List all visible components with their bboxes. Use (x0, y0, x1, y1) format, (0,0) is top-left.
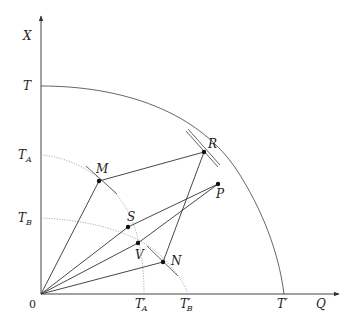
label-v: V (135, 248, 145, 262)
x-tick-ta-prime: T′A (135, 297, 148, 313)
y-tick-t: T (23, 79, 32, 93)
y-tick-tb: TB (18, 211, 32, 227)
production-possibility-diagram: M R P S V N X Q 0 T TA TB T′A T′B T′ (0, 0, 357, 328)
point-s (126, 225, 130, 229)
segment-s-p (128, 184, 218, 227)
segment-m-r (99, 152, 204, 181)
segment-v-p (138, 184, 218, 243)
point-m (97, 179, 101, 183)
point-n (161, 260, 165, 264)
point-p (216, 182, 220, 186)
ray-0-m (41, 181, 99, 294)
label-n: N (170, 254, 182, 268)
label-p: P (215, 187, 225, 201)
y-axis-label: X (22, 29, 32, 43)
frontier-a-curve (41, 155, 144, 294)
label-m: M (95, 162, 109, 176)
ray-0-n (41, 262, 163, 294)
label-s: S (127, 210, 135, 224)
x-tick-tb-prime: T′B (180, 297, 193, 313)
x-axis-label: Q (316, 297, 326, 311)
origin-label: 0 (29, 298, 36, 311)
ray-0-s (41, 227, 128, 294)
point-v (136, 241, 140, 245)
y-tick-ta: TA (18, 148, 32, 164)
ray-0-v (41, 243, 138, 294)
point-r (202, 150, 206, 154)
label-r: R (207, 137, 217, 151)
x-tick-t-prime: T′ (277, 297, 288, 311)
